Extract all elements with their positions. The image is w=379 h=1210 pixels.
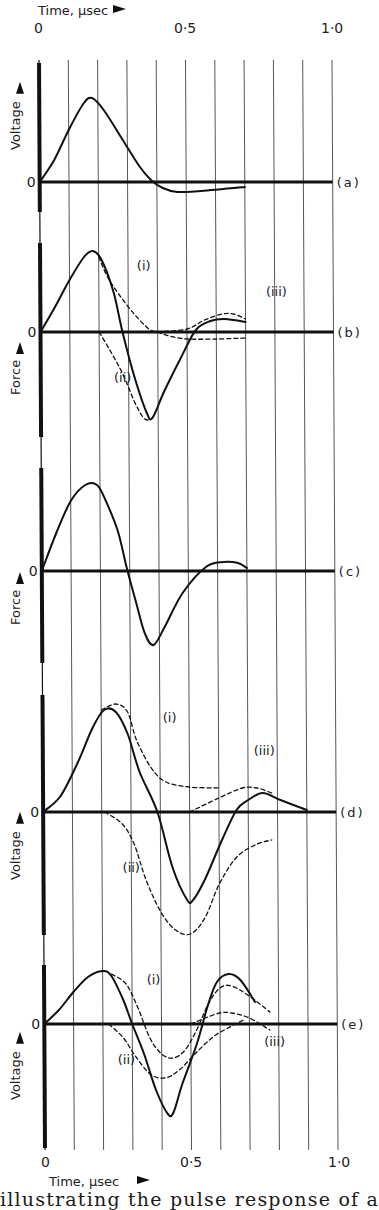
panel-label: (b) xyxy=(337,325,361,340)
bottom-tick-1-0: 1·0 xyxy=(328,1154,350,1170)
arrow-up-icon xyxy=(16,82,24,94)
gridline xyxy=(303,60,309,1150)
zero-label: 0 xyxy=(27,174,36,190)
zero-label: 0 xyxy=(31,1016,40,1032)
curve-annotation: (i) xyxy=(137,258,151,273)
arrow-up-icon xyxy=(16,342,24,354)
curve-main xyxy=(44,971,255,1116)
time-gridlines xyxy=(68,60,338,1150)
zero-label: 0 xyxy=(29,563,38,579)
gridline xyxy=(215,60,221,1150)
gridline xyxy=(98,60,104,1150)
curve-annotation: (ii) xyxy=(118,1052,135,1067)
curve-dashed xyxy=(190,787,272,812)
panel-label: (a) xyxy=(337,175,361,190)
arrow-up-icon xyxy=(16,572,24,584)
panel-label: (d) xyxy=(340,805,364,820)
curve-main xyxy=(42,483,247,645)
top-axis-label: Time, μsec xyxy=(37,3,108,18)
panel-a: 0(a)Voltage xyxy=(8,82,361,192)
gridline xyxy=(332,60,338,1150)
y-axis-label: Force xyxy=(8,360,23,395)
y-axis-label: Voltage xyxy=(8,101,23,150)
top-time-axis: Time, μsec 0 0·5 1·0 xyxy=(34,3,343,36)
y-axis-label: Voltage xyxy=(8,831,23,880)
panel-e: 0(e)Voltage(i)(ii)(iii) xyxy=(8,971,365,1116)
bottom-axis-label: Time, μsec xyxy=(48,1174,119,1189)
y-axis-segment xyxy=(41,468,42,663)
gridline xyxy=(68,60,74,1150)
figure-caption: illustrating the pulse response of a xyxy=(0,1188,379,1210)
y-axis-segment xyxy=(39,63,40,212)
y-axis-segment xyxy=(40,243,41,437)
gridline xyxy=(186,60,192,1150)
curve-dashed xyxy=(109,1020,244,1078)
zero-label: 0 xyxy=(27,324,36,340)
y-axis-label: Force xyxy=(8,590,23,625)
gridline xyxy=(273,60,279,1150)
curve-dashed xyxy=(158,313,246,332)
arrow-up-icon xyxy=(16,1032,24,1044)
arrow-right-icon xyxy=(137,1176,150,1184)
panel-label: (c) xyxy=(339,564,362,579)
y-axis-label: Voltage xyxy=(8,1051,23,1100)
curve-annotation: (i) xyxy=(147,972,161,987)
curve-main xyxy=(41,251,246,420)
bottom-time-axis: 0 0·5 1·0 Time, μsec xyxy=(41,1154,350,1189)
curve-annotation: (i) xyxy=(163,710,177,725)
panel-c: 0(c)Force xyxy=(8,483,362,645)
panel-b: 0(b)Force(i)(ii)(iii) xyxy=(8,251,362,420)
y-axis-segment xyxy=(44,965,45,1148)
top-tick-0: 0 xyxy=(34,20,43,36)
curve-annotation: (iii) xyxy=(254,743,275,758)
top-tick-0-5: 0·5 xyxy=(174,20,196,36)
panel-label: (e) xyxy=(341,1017,365,1032)
top-tick-1-0: 1·0 xyxy=(321,20,343,36)
curve-main xyxy=(43,708,307,903)
arrow-right-icon xyxy=(113,5,126,13)
arrow-up-icon xyxy=(16,812,24,824)
y-axis-segment xyxy=(42,695,43,935)
curve-annotation: (iii) xyxy=(264,1034,285,1049)
bottom-tick-0: 0 xyxy=(41,1154,50,1170)
panel-d: 0(d)Voltage(i)(ii)(iii) xyxy=(8,704,365,935)
curve-annotation: (iii) xyxy=(266,284,287,299)
curve-annotation: (ii) xyxy=(123,860,140,875)
zero-label: 0 xyxy=(30,804,39,820)
curve-annotation: (ii) xyxy=(114,370,131,385)
curve-main xyxy=(40,98,245,192)
bottom-tick-0-5: 0·5 xyxy=(180,1154,202,1170)
vertical-axis-segments xyxy=(39,60,45,1150)
